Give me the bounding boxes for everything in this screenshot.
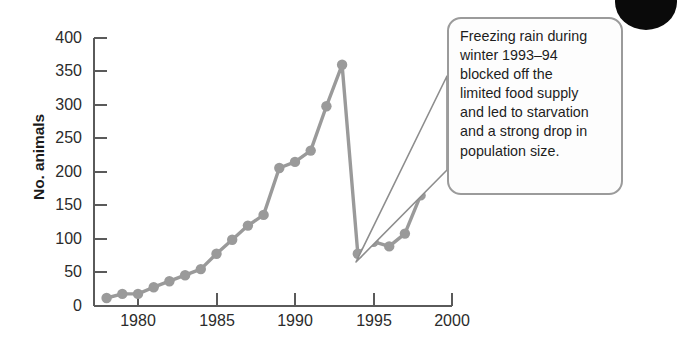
data-point [211, 249, 221, 259]
x-tick-label-1980: 1980 [108, 313, 168, 329]
data-point [149, 282, 159, 292]
data-point [337, 60, 347, 70]
y-tick-label-250: 250 [34, 130, 82, 146]
data-point [274, 163, 284, 173]
data-point [227, 235, 237, 245]
y-axis-ticks [94, 38, 107, 272]
data-point [180, 270, 190, 280]
data-point [133, 289, 143, 299]
data-point [258, 210, 268, 220]
y-tick-label-100: 100 [34, 231, 82, 247]
annotation-callout-text: Freezing rain during winter 1993–94 bloc… [460, 27, 611, 161]
data-line [107, 65, 421, 298]
data-point [243, 220, 253, 230]
data-point [290, 157, 300, 167]
data-point [321, 101, 331, 111]
annotation-callout: Freezing rain during winter 1993–94 bloc… [447, 17, 623, 195]
data-point-markers [101, 60, 425, 304]
data-point [384, 241, 394, 251]
x-tick-label-2000: 2000 [422, 313, 482, 329]
x-axis-ticks [138, 293, 452, 306]
data-point [101, 293, 111, 303]
y-tick-label-150: 150 [34, 197, 82, 213]
y-tick-label-200: 200 [34, 164, 82, 180]
x-tick-label-1985: 1985 [187, 313, 247, 329]
data-point [306, 145, 316, 155]
data-point [400, 228, 410, 238]
x-tick-label-1990: 1990 [265, 313, 325, 329]
x-tick-label-1995: 1995 [344, 313, 404, 329]
data-point [117, 289, 127, 299]
y-tick-label-350: 350 [34, 63, 82, 79]
y-tick-label-50: 50 [34, 264, 82, 280]
y-tick-label-0: 0 [34, 298, 82, 314]
y-tick-label-400: 400 [34, 30, 82, 46]
data-point [196, 264, 206, 274]
y-tick-label-300: 300 [34, 97, 82, 113]
axis-lines [94, 38, 452, 306]
data-point [164, 276, 174, 286]
